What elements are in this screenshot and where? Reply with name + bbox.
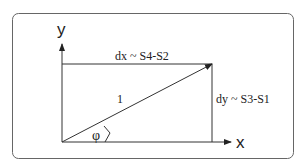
diagram-frame xyxy=(13,14,294,159)
unit-vector xyxy=(62,64,212,142)
vector-diagram: y x dx ~ S4-S2 dy ~ S3-S1 1 φ xyxy=(0,0,299,168)
angle-arc xyxy=(104,126,110,142)
angle-label: φ xyxy=(92,128,100,143)
y-axis-label: y xyxy=(57,20,66,39)
x-axis-label: x xyxy=(236,133,245,152)
dy-label: dy ~ S3-S1 xyxy=(216,92,270,106)
dx-label: dx ~ S4-S2 xyxy=(115,49,169,63)
hypotenuse-label: 1 xyxy=(117,92,123,106)
